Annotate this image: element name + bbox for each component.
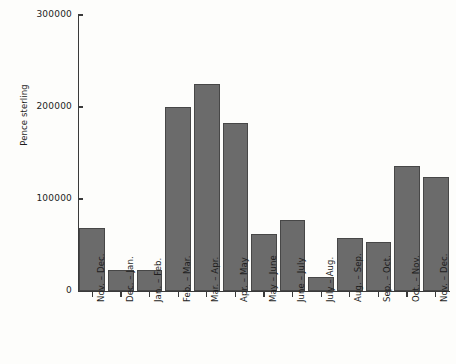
bar-chart: Pence sterling 3000002000001000000 Nov. …: [0, 0, 456, 364]
x-axis-tick: [235, 292, 236, 297]
y-axis-tick: [78, 106, 83, 107]
x-axis-tick: [120, 292, 121, 297]
x-axis-tick: [378, 292, 379, 297]
x-axis-tick-label: Oct. – Nov.: [411, 255, 421, 302]
y-axis-tick-label: 200000: [2, 101, 72, 111]
y-axis-tick-label: 0: [2, 285, 72, 295]
x-axis-tick: [263, 292, 264, 297]
x-axis-tick: [292, 292, 293, 297]
x-axis-tick-label: Mar. – Apr.: [210, 257, 220, 302]
y-axis-title: Pence sterling: [19, 55, 29, 175]
x-axis-tick: [149, 292, 150, 297]
x-axis-tick: [435, 292, 436, 297]
x-axis-tick-label: June – July: [296, 257, 306, 302]
x-axis-tick-label: Sep. – Oct.: [382, 255, 392, 302]
x-axis-tick: [321, 292, 322, 297]
x-axis-tick-label: Nov. – Dec.: [439, 253, 449, 302]
y-axis-tick-label: 100000: [2, 193, 72, 203]
x-axis-tick-label: Nov. – Dec.: [96, 253, 106, 302]
x-axis-tick: [206, 292, 207, 297]
x-axis-tick-label: May – June: [268, 255, 278, 302]
x-axis-tick-label: Jan. – Feb.: [153, 258, 163, 302]
y-axis-tick-label: 300000: [2, 9, 72, 19]
y-axis-tick: [78, 198, 83, 199]
x-axis-tick: [406, 292, 407, 297]
x-axis-tick-label: Apr. – May: [239, 257, 249, 302]
x-axis-tick-label: July – Aug.: [325, 257, 335, 302]
x-axis-tick-label: Feb. – Mar.: [182, 256, 192, 302]
x-axis-tick-label: Dec. – Jan.: [125, 256, 135, 302]
x-axis-tick: [178, 292, 179, 297]
x-axis-tick-label: Aug. – Sep.: [353, 253, 363, 302]
y-axis-tick: [78, 14, 83, 15]
x-axis-tick: [349, 292, 350, 297]
x-axis-tick: [92, 292, 93, 297]
